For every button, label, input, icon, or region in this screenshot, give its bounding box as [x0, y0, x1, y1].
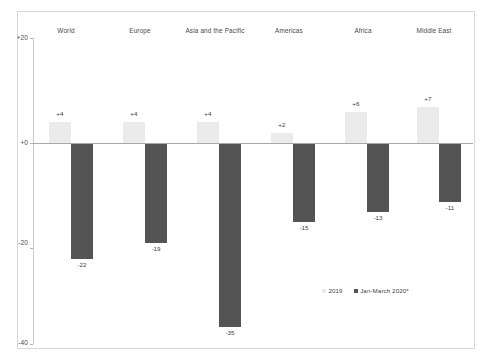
bar-value-2020-world: -22 — [77, 261, 86, 268]
y-tick-label-0: +0 — [2, 139, 28, 146]
y-tick-mark — [30, 344, 33, 345]
category-label-asia-and-the-pacific: Asia and the Pacific — [185, 27, 244, 34]
bar-2020-middle-east — [439, 144, 461, 202]
bar-value-2019-europe: +4 — [130, 110, 137, 117]
bar-2020-world — [71, 144, 93, 259]
y-axis-line — [33, 38, 34, 344]
legend-swatch-icon — [322, 289, 326, 293]
legend-entry-2019: 2019 — [322, 287, 343, 294]
bar-value-2020-asia-and-the-pacific: -35 — [225, 329, 234, 336]
y-tick-mark — [30, 143, 33, 144]
bar-2019-africa — [345, 112, 367, 143]
bar-value-2020-europe: -19 — [151, 245, 160, 252]
category-label-europe: Europe — [129, 27, 151, 34]
y-tick-label-20: +20 — [2, 34, 28, 41]
y-tick-label-neg20: -20 — [2, 239, 28, 246]
y-tick-mark — [30, 38, 33, 39]
bar-2020-africa — [367, 144, 389, 212]
legend-label-2020: Jan-March 2020* — [360, 287, 409, 294]
category-label-world: World — [57, 27, 74, 34]
legend-entry-2020: Jan-March 2020* — [354, 287, 409, 294]
bar-2019-europe — [123, 122, 145, 143]
bar-chart: +20 +0 -20 -40 World Europe Asia and the… — [0, 0, 486, 361]
bar-2020-europe — [145, 144, 167, 243]
bar-2020-asia-and-the-pacific — [219, 144, 241, 327]
legend-swatch-icon — [354, 289, 358, 293]
bar-value-2019-americas: +2 — [278, 121, 285, 128]
y-tick-mark — [30, 248, 33, 249]
zero-baseline — [33, 143, 473, 144]
bar-2020-americas — [293, 144, 315, 222]
chart-legend: 2019 Jan-March 2020* — [322, 287, 409, 294]
bar-2019-world — [49, 122, 71, 143]
bar-2019-americas — [271, 133, 293, 143]
legend-label-2019: 2019 — [329, 287, 343, 294]
bar-value-2020-americas: -15 — [299, 224, 308, 231]
bar-value-2020-middle-east: -11 — [446, 204, 455, 211]
bar-value-2020-africa: -13 — [373, 214, 382, 221]
bar-2019-middle-east — [417, 107, 439, 143]
y-tick-label-neg40: -40 — [2, 339, 28, 346]
category-label-africa: Africa — [354, 27, 371, 34]
bar-2019-asia-and-the-pacific — [197, 122, 219, 143]
bar-value-2019-africa: +6 — [352, 100, 359, 107]
category-label-americas: Americas — [275, 27, 303, 34]
bar-value-2019-middle-east: +7 — [424, 95, 431, 102]
bar-value-2019-world: +4 — [56, 110, 63, 117]
bar-value-2019-asia-and-the-pacific: +4 — [204, 110, 211, 117]
category-label-middle-east: Middle East — [416, 27, 451, 34]
